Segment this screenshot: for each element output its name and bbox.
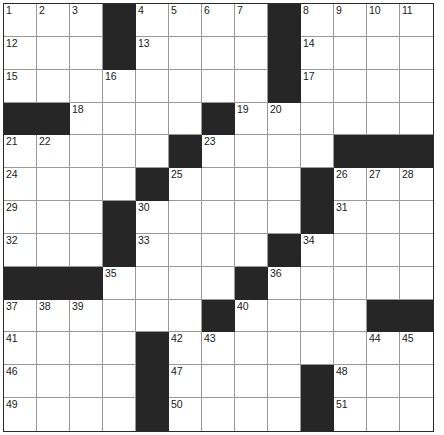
letter-cell[interactable] bbox=[367, 201, 400, 234]
letter-cell[interactable]: 47 bbox=[169, 365, 202, 398]
letter-cell[interactable]: 4 bbox=[136, 4, 169, 37]
letter-cell[interactable] bbox=[70, 168, 103, 201]
letter-cell[interactable]: 35 bbox=[103, 267, 136, 300]
letter-cell[interactable] bbox=[268, 201, 301, 234]
letter-cell[interactable] bbox=[202, 70, 235, 103]
letter-cell[interactable] bbox=[400, 70, 433, 103]
letter-cell[interactable] bbox=[268, 168, 301, 201]
letter-cell[interactable] bbox=[37, 168, 70, 201]
letter-cell[interactable] bbox=[202, 168, 235, 201]
letter-cell[interactable]: 44 bbox=[367, 332, 400, 365]
letter-cell[interactable]: 13 bbox=[136, 37, 169, 70]
letter-cell[interactable]: 29 bbox=[4, 201, 37, 234]
letter-cell[interactable] bbox=[400, 201, 433, 234]
letter-cell[interactable] bbox=[103, 398, 136, 431]
letter-cell[interactable]: 45 bbox=[400, 332, 433, 365]
letter-cell[interactable] bbox=[70, 398, 103, 431]
letter-cell[interactable]: 25 bbox=[169, 168, 202, 201]
letter-cell[interactable] bbox=[367, 267, 400, 300]
letter-cell[interactable] bbox=[202, 267, 235, 300]
letter-cell[interactable] bbox=[235, 135, 268, 168]
letter-cell[interactable] bbox=[334, 234, 367, 267]
letter-cell[interactable]: 5 bbox=[169, 4, 202, 37]
letter-cell[interactable] bbox=[400, 234, 433, 267]
letter-cell[interactable] bbox=[400, 365, 433, 398]
letter-cell[interactable] bbox=[202, 37, 235, 70]
crossword-grid[interactable]: 1234567891011121314151617181920212223242… bbox=[3, 3, 434, 432]
letter-cell[interactable]: 16 bbox=[103, 70, 136, 103]
letter-cell[interactable] bbox=[103, 103, 136, 136]
letter-cell[interactable]: 42 bbox=[169, 332, 202, 365]
letter-cell[interactable] bbox=[169, 70, 202, 103]
letter-cell[interactable] bbox=[103, 332, 136, 365]
letter-cell[interactable] bbox=[301, 332, 334, 365]
letter-cell[interactable]: 14 bbox=[301, 37, 334, 70]
letter-cell[interactable] bbox=[169, 103, 202, 136]
letter-cell[interactable]: 11 bbox=[400, 4, 433, 37]
letter-cell[interactable] bbox=[235, 201, 268, 234]
letter-cell[interactable]: 34 bbox=[301, 234, 334, 267]
letter-cell[interactable]: 8 bbox=[301, 4, 334, 37]
letter-cell[interactable] bbox=[202, 201, 235, 234]
letter-cell[interactable] bbox=[37, 201, 70, 234]
letter-cell[interactable] bbox=[136, 300, 169, 333]
letter-cell[interactable] bbox=[169, 234, 202, 267]
letter-cell[interactable] bbox=[169, 201, 202, 234]
letter-cell[interactable]: 30 bbox=[136, 201, 169, 234]
letter-cell[interactable] bbox=[103, 168, 136, 201]
letter-cell[interactable]: 51 bbox=[334, 398, 367, 431]
letter-cell[interactable] bbox=[136, 103, 169, 136]
letter-cell[interactable]: 49 bbox=[4, 398, 37, 431]
letter-cell[interactable]: 33 bbox=[136, 234, 169, 267]
letter-cell[interactable] bbox=[169, 267, 202, 300]
letter-cell[interactable]: 3 bbox=[70, 4, 103, 37]
letter-cell[interactable] bbox=[334, 267, 367, 300]
letter-cell[interactable] bbox=[334, 300, 367, 333]
letter-cell[interactable]: 50 bbox=[169, 398, 202, 431]
letter-cell[interactable]: 32 bbox=[4, 234, 37, 267]
letter-cell[interactable] bbox=[334, 332, 367, 365]
letter-cell[interactable] bbox=[268, 332, 301, 365]
letter-cell[interactable]: 20 bbox=[268, 103, 301, 136]
letter-cell[interactable]: 26 bbox=[334, 168, 367, 201]
letter-cell[interactable] bbox=[367, 365, 400, 398]
letter-cell[interactable] bbox=[235, 398, 268, 431]
letter-cell[interactable]: 15 bbox=[4, 70, 37, 103]
letter-cell[interactable] bbox=[202, 398, 235, 431]
letter-cell[interactable] bbox=[37, 365, 70, 398]
letter-cell[interactable] bbox=[268, 300, 301, 333]
letter-cell[interactable] bbox=[70, 201, 103, 234]
letter-cell[interactable] bbox=[235, 332, 268, 365]
letter-cell[interactable] bbox=[400, 103, 433, 136]
letter-cell[interactable]: 12 bbox=[4, 37, 37, 70]
letter-cell[interactable] bbox=[235, 168, 268, 201]
letter-cell[interactable] bbox=[169, 300, 202, 333]
letter-cell[interactable] bbox=[301, 135, 334, 168]
letter-cell[interactable] bbox=[70, 365, 103, 398]
letter-cell[interactable] bbox=[37, 37, 70, 70]
letter-cell[interactable] bbox=[136, 267, 169, 300]
letter-cell[interactable] bbox=[37, 70, 70, 103]
letter-cell[interactable]: 39 bbox=[70, 300, 103, 333]
letter-cell[interactable]: 40 bbox=[235, 300, 268, 333]
letter-cell[interactable]: 37 bbox=[4, 300, 37, 333]
letter-cell[interactable] bbox=[70, 37, 103, 70]
letter-cell[interactable]: 38 bbox=[37, 300, 70, 333]
letter-cell[interactable] bbox=[103, 135, 136, 168]
letter-cell[interactable]: 43 bbox=[202, 332, 235, 365]
letter-cell[interactable]: 18 bbox=[70, 103, 103, 136]
letter-cell[interactable] bbox=[334, 37, 367, 70]
letter-cell[interactable] bbox=[301, 103, 334, 136]
letter-cell[interactable]: 22 bbox=[37, 135, 70, 168]
letter-cell[interactable] bbox=[169, 37, 202, 70]
letter-cell[interactable] bbox=[235, 37, 268, 70]
letter-cell[interactable]: 7 bbox=[235, 4, 268, 37]
letter-cell[interactable] bbox=[367, 70, 400, 103]
letter-cell[interactable]: 24 bbox=[4, 168, 37, 201]
letter-cell[interactable] bbox=[136, 70, 169, 103]
letter-cell[interactable] bbox=[235, 365, 268, 398]
letter-cell[interactable] bbox=[400, 37, 433, 70]
letter-cell[interactable] bbox=[103, 365, 136, 398]
letter-cell[interactable]: 41 bbox=[4, 332, 37, 365]
letter-cell[interactable]: 6 bbox=[202, 4, 235, 37]
